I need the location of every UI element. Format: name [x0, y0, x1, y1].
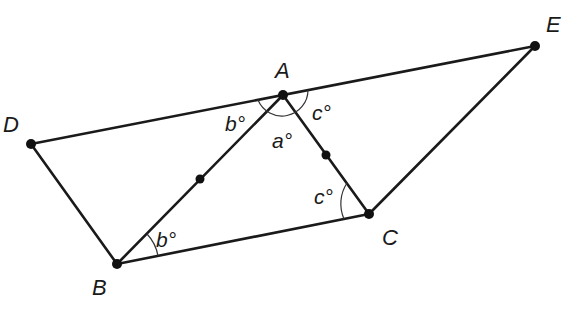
- point-E: [530, 41, 540, 51]
- angle-arc-C: [341, 183, 347, 219]
- angle-label-b-bottom: b°: [156, 228, 176, 251]
- segment-CE: [369, 46, 535, 214]
- label-D: D: [3, 112, 19, 137]
- label-C: C: [382, 225, 398, 250]
- midpoint-AB: [196, 175, 205, 184]
- point-B: [112, 259, 122, 269]
- point-D: [26, 139, 36, 149]
- label-E: E: [546, 12, 561, 37]
- segment-DB: [31, 144, 117, 264]
- angle-label-c-bottom: c°: [314, 185, 333, 208]
- angle-label-b-top: b°: [225, 112, 245, 135]
- point-C: [364, 209, 374, 219]
- point-A: [278, 90, 288, 100]
- midpoint-AC: [322, 151, 331, 160]
- segment-BC: [117, 214, 369, 264]
- label-B: B: [92, 275, 107, 300]
- geometry-diagram: A B C D E a° b° c° b° c°: [0, 0, 586, 313]
- label-A: A: [273, 58, 290, 83]
- angle-label-c-top: c°: [312, 101, 331, 124]
- angle-label-a: a°: [272, 129, 292, 152]
